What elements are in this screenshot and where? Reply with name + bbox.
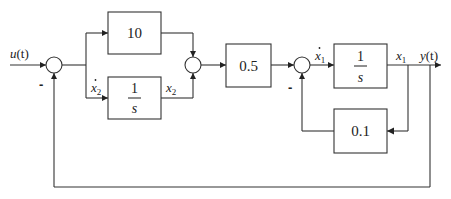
arrow-icon bbox=[102, 30, 108, 36]
summing-junction-2 bbox=[185, 57, 201, 73]
input-label: u(t) bbox=[10, 46, 29, 61]
gain-0.1-label: 0.1 bbox=[351, 123, 370, 139]
arrow-icon bbox=[387, 128, 394, 135]
sum3-minus-sign: - bbox=[288, 80, 292, 95]
arrow-icon bbox=[40, 62, 46, 68]
gain-0.5-label: 0.5 bbox=[239, 58, 258, 74]
arrow-icon bbox=[190, 73, 196, 79]
dot-icon bbox=[95, 79, 97, 81]
gain-10-label: 10 bbox=[127, 25, 142, 41]
integrator1-denominator: s bbox=[358, 70, 364, 85]
x2-label: x2 bbox=[165, 80, 176, 97]
arrow-icon bbox=[220, 62, 226, 68]
integrator2-denominator: s bbox=[132, 101, 138, 116]
arrow-icon bbox=[102, 95, 108, 101]
x2dot-label: x2 bbox=[90, 80, 101, 97]
integrator2-numerator: 1 bbox=[131, 81, 138, 96]
arrow-icon bbox=[190, 51, 196, 57]
summing-junction-3 bbox=[294, 57, 310, 73]
arrow-icon bbox=[328, 62, 334, 68]
dot-icon bbox=[319, 47, 321, 49]
arrow-icon bbox=[51, 73, 57, 79]
block-diagram: u(t) - x2 10 1 s x2 0.5 - x1 1 s bbox=[0, 0, 451, 199]
arrow-icon bbox=[288, 62, 294, 68]
arrow-icon bbox=[299, 73, 305, 79]
output-label: y(t) bbox=[418, 48, 438, 63]
summing-junction-1 bbox=[46, 57, 62, 73]
x1-label: x1 bbox=[395, 48, 406, 65]
sum1-minus-sign: - bbox=[39, 77, 43, 92]
x1dot-label: x1 bbox=[314, 48, 325, 65]
integrator1-numerator: 1 bbox=[357, 49, 364, 64]
